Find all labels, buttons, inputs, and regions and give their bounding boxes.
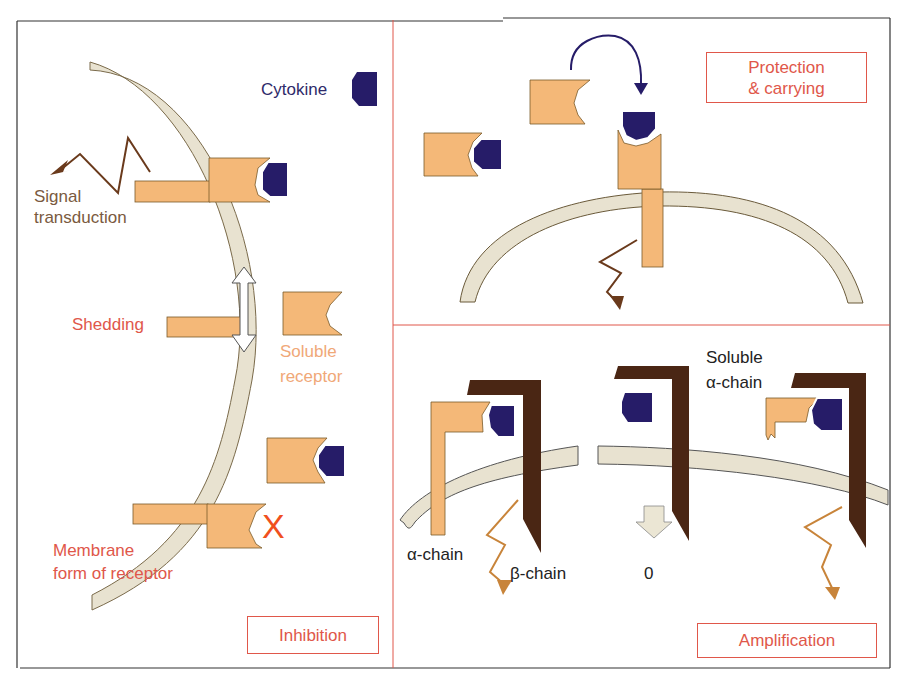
inhibition-title-box: Inhibition: [247, 616, 379, 654]
inhibition-title: Inhibition: [279, 626, 347, 645]
cytokine-icon: [488, 405, 515, 437]
protection-title-box: Protection & carrying: [706, 52, 867, 103]
cell-membrane-left: [400, 446, 578, 528]
cytokine-icon: [352, 72, 377, 106]
membrane-form-label-1: Membrane: [53, 540, 134, 561]
free-soluble-receptor: [530, 80, 590, 124]
beta-chain-label: β-chain: [510, 563, 566, 584]
blocked-x-mark: X: [262, 506, 285, 546]
amplification-title: Amplification: [739, 631, 835, 650]
soluble-receptor-label-2: receptor: [280, 366, 342, 387]
protection-title-line-1: Protection: [707, 57, 866, 78]
cytokine-icon: [811, 398, 843, 431]
signal-transduction-arrow: [600, 240, 637, 302]
amplification-title-box: Amplification: [697, 623, 877, 658]
soluble-alpha-chain: [766, 398, 819, 440]
transfer-arrow: [571, 36, 641, 85]
membrane-receptor-bound: [135, 158, 288, 202]
signal-transduction-label-2: transduction: [34, 207, 127, 228]
membrane-form-label-2: form of receptor: [53, 563, 173, 584]
no-signal-arrow-icon: [636, 506, 672, 538]
soluble-receptor-label-1: Soluble: [280, 341, 337, 362]
cytokine-label: Cytokine: [261, 79, 327, 100]
signal-transduction-label-1: Signal: [34, 186, 81, 207]
soluble-alpha-chain-label-2: α-chain: [706, 372, 762, 393]
shedding-receptor-stalk: [167, 317, 241, 337]
alpha-chain-label: α-chain: [407, 544, 463, 565]
membrane-receptor-bound: [618, 111, 663, 267]
signal-transduction-arrow: [805, 507, 842, 590]
shedding-label: Shedding: [72, 314, 144, 335]
soluble-alpha-chain-label-1: Soluble: [706, 347, 763, 368]
soluble-receptor-bound: [267, 438, 345, 483]
inhibition-panel: [50, 62, 377, 610]
protection-title-line-2: & carrying: [707, 78, 866, 99]
cell-membrane-right: [598, 446, 888, 505]
soluble-receptor: [283, 292, 342, 335]
cytokine-icon: [622, 393, 652, 422]
soluble-receptor-bound: [424, 133, 502, 176]
zero-signal-label: 0: [644, 563, 653, 584]
